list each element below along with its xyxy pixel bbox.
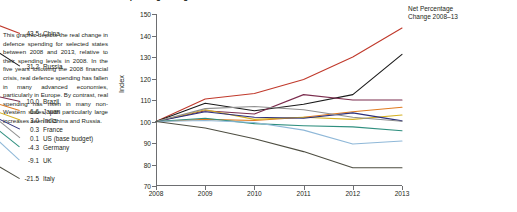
y-tick-label: 100 — [125, 118, 151, 125]
x-tick-label: 2011 — [284, 190, 324, 197]
legend-label-brazil: Brazil — [43, 98, 59, 105]
y-tick-label: 70 — [125, 183, 151, 190]
legend-header-line1: Net Percentage — [408, 5, 516, 13]
legend: Net Percentage Change 2008–13 — [408, 5, 516, 21]
legend-label-us-base-budget: US (base budget) — [43, 134, 93, 141]
x-tick-label: 2012 — [333, 190, 373, 197]
legend-header: Net Percentage Change 2008–13 — [408, 5, 516, 21]
series-lines — [156, 14, 402, 186]
series-line-italy — [156, 122, 402, 168]
legend-leader-china — [0, 23, 20, 34]
legend-item-russia[interactable]: 31.2Russia — [22, 63, 63, 70]
legend-value-us-base-budget: 0.1 — [22, 134, 39, 141]
y-tick-label: 150 — [125, 11, 151, 18]
legend-leader-russia — [0, 49, 20, 66]
legend-value-france: 0.3 — [22, 125, 39, 132]
y-tick-label: 80 — [125, 161, 151, 168]
legend-value-germany: -4.3 — [22, 143, 39, 150]
legend-label-china: China — [43, 30, 60, 37]
legend-value-japan: 6.6 — [22, 107, 39, 114]
x-tick-label: 2013 — [382, 190, 422, 197]
page-title: Real Defence Spending Changes in Selecte… — [72, 0, 432, 2]
legend-value-brazil: 10.0 — [22, 98, 39, 105]
legend-item-india[interactable]: 3.0India — [22, 116, 57, 123]
legend-item-brazil[interactable]: 10.0Brazil — [22, 98, 59, 105]
series-line-uk — [156, 120, 402, 144]
x-tick-label: 2009 — [185, 190, 225, 197]
y-axis-title: Index — [117, 75, 126, 93]
legend-value-china: 43.5 — [22, 30, 39, 37]
y-tick-label: 130 — [125, 54, 151, 61]
legend-leader-india — [0, 110, 20, 120]
legend-value-uk: -9.1 — [22, 157, 39, 164]
legend-label-uk: UK — [43, 157, 52, 164]
legend-item-germany[interactable]: -4.3Germany — [22, 143, 69, 150]
legend-label-germany: Germany — [43, 143, 69, 150]
y-tick-label: 110 — [125, 97, 151, 104]
page-title-rest: in Selected States since the 2008 Financ… — [197, 0, 374, 1]
legend-entries: 43.5China31.2Russia10.0Brazil6.6Japan3.0… — [0, 0, 108, 200]
legend-header-line2: Change 2008–13 — [408, 13, 516, 21]
legend-item-japan[interactable]: 6.6Japan — [22, 107, 60, 114]
legend-item-italy[interactable]: -21.5Italy — [22, 175, 55, 182]
legend-item-us-base-budget[interactable]: 0.1US (base budget) — [22, 134, 93, 141]
legend-leader-japan — [0, 102, 20, 111]
legend-value-russia: 31.2 — [22, 63, 39, 70]
y-tick-label: 90 — [125, 140, 151, 147]
legend-label-italy: Italy — [43, 175, 55, 182]
legend-label-japan: Japan — [43, 107, 60, 114]
legend-label-russia: Russia — [43, 63, 63, 70]
legend-value-italy: -21.5 — [22, 175, 39, 182]
legend-label-india: India — [43, 116, 57, 123]
chart-plot-area: 708090100110120130140150 200820092010201… — [156, 14, 402, 186]
legend-item-uk[interactable]: -9.1UK — [22, 157, 52, 164]
y-tick-label: 120 — [125, 75, 151, 82]
y-tick-label: 140 — [125, 32, 151, 39]
legend-item-china[interactable]: 43.5China — [22, 30, 60, 37]
legend-leader-italy — [0, 163, 20, 179]
legend-leader-brazil — [0, 95, 20, 102]
legend-label-france: France — [43, 125, 63, 132]
legend-value-india: 3.0 — [22, 116, 39, 123]
x-tick-label: 2008 — [136, 190, 176, 197]
x-tick-label: 2010 — [234, 190, 274, 197]
legend-item-france[interactable]: 0.3France — [22, 125, 63, 132]
